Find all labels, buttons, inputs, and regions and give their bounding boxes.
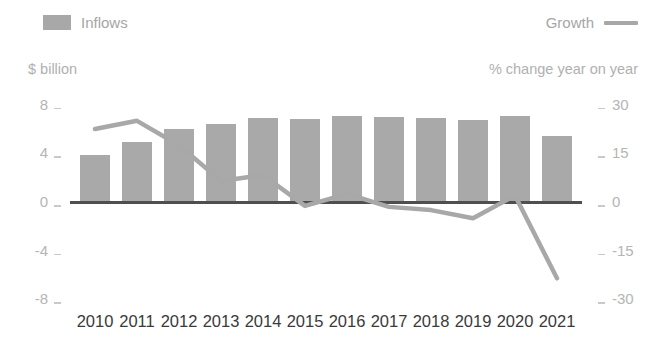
- plot-area: 840-4-8 30150-15-30 20102011201220132014…: [0, 0, 659, 357]
- category-label-2013: 2013: [200, 312, 242, 331]
- category-label-2020: 2020: [494, 312, 536, 331]
- category-label-2011: 2011: [116, 312, 158, 331]
- category-label-2015: 2015: [284, 312, 326, 331]
- category-label-2019: 2019: [452, 312, 494, 331]
- category-label-2014: 2014: [242, 312, 284, 331]
- category-label-2016: 2016: [326, 312, 368, 331]
- category-label-2018: 2018: [410, 312, 452, 331]
- chart-container: Inflows Growth $ billion % change year o…: [0, 0, 659, 357]
- category-label-2021: 2021: [536, 312, 578, 331]
- category-label-2012: 2012: [158, 312, 200, 331]
- line-series-growth: [0, 0, 659, 357]
- category-label-2017: 2017: [368, 312, 410, 331]
- category-label-2010: 2010: [74, 312, 116, 331]
- growth-line-path: [95, 121, 557, 278]
